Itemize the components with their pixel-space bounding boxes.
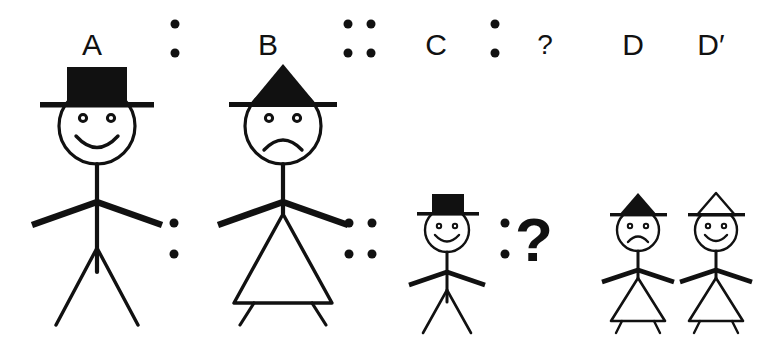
dot <box>344 20 353 29</box>
dot <box>171 20 180 29</box>
dot <box>491 49 500 58</box>
dot <box>367 20 376 29</box>
pointed-hat-black <box>229 64 337 107</box>
pointed-hat-black <box>610 193 667 216</box>
pointed-hat-white <box>688 193 745 216</box>
dot <box>344 49 353 58</box>
label-d: D <box>622 30 644 60</box>
dot <box>368 250 377 259</box>
dot <box>170 219 179 228</box>
dot <box>345 219 354 228</box>
figure-c[interactable] <box>395 190 500 335</box>
dot <box>345 250 354 259</box>
dot <box>367 49 376 58</box>
dot <box>171 49 180 58</box>
analogy-puzzle-canvas: A B C ? D D′ <box>0 0 764 339</box>
label-c: C <box>425 30 447 60</box>
dot <box>501 250 510 259</box>
dot <box>501 219 510 228</box>
label-question: ? <box>537 30 553 60</box>
figure-b[interactable] <box>196 62 371 327</box>
dot <box>491 20 500 29</box>
label-b: B <box>258 30 278 60</box>
label-d-prime: D′ <box>697 30 724 60</box>
top-hat-black <box>40 67 154 108</box>
figure-d-prime[interactable] <box>670 190 762 335</box>
dot <box>368 219 377 228</box>
figure-a[interactable] <box>10 62 185 327</box>
label-a: A <box>82 30 102 60</box>
answer-question-mark: ? <box>515 209 553 271</box>
dot <box>170 250 179 259</box>
top-hat-black <box>417 194 479 216</box>
